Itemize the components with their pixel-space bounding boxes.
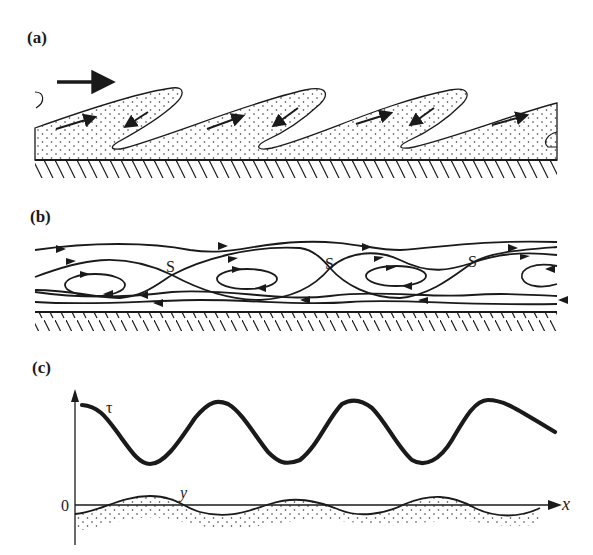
arrowhead-left <box>256 284 266 292</box>
arrowhead-right <box>232 266 242 273</box>
arrowhead-left <box>545 265 555 273</box>
separatrix-falling <box>35 247 557 298</box>
arrowhead-right <box>362 243 372 251</box>
arrowhead-right <box>520 254 530 260</box>
panel-a <box>35 82 557 179</box>
arrowhead-left <box>558 296 568 304</box>
shear-stress-tau-curve <box>82 400 555 464</box>
saddle-label: S <box>325 255 334 272</box>
y-label: y <box>178 484 188 502</box>
x-axis-arrowhead <box>548 500 562 510</box>
arrowhead-right <box>228 256 238 263</box>
streamline-top <box>35 242 557 252</box>
tau-label: τ <box>106 399 113 416</box>
arrowhead-right <box>218 242 228 250</box>
panel-b <box>35 242 568 331</box>
wall-hatching <box>35 161 557 179</box>
arrowhead-right <box>374 256 384 262</box>
fluid-layer-lobes <box>35 88 557 160</box>
origin-label: 0 <box>61 497 69 514</box>
eddy <box>366 266 426 286</box>
wall-hatching <box>35 313 557 331</box>
eddy <box>65 274 125 296</box>
saddle-label: S <box>468 253 477 270</box>
figure-canvas: S S S τ y 0 x <box>0 0 593 555</box>
streamline-lower-2 <box>35 300 557 304</box>
arrowhead-right <box>80 271 90 278</box>
eddy <box>217 269 277 289</box>
saddle-label: S <box>166 258 175 275</box>
panel-c <box>71 389 562 545</box>
arrowhead-left <box>418 297 428 304</box>
y-axis-arrowhead <box>71 389 79 402</box>
x-axis-label: x <box>561 494 570 514</box>
arrowhead-left <box>402 282 412 290</box>
lobe-curl-left <box>35 92 43 108</box>
